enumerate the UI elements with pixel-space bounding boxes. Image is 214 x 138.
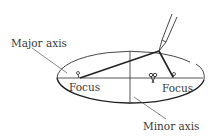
focus-left-label: Focus xyxy=(69,82,100,93)
major-axis-label: Major axis xyxy=(11,38,67,49)
pin-right-icon xyxy=(173,73,176,79)
pin-left-icon xyxy=(77,72,80,79)
pencil-icon xyxy=(159,14,177,51)
major-axis-leader xyxy=(32,48,67,73)
minor-axis-label: Minor axis xyxy=(143,121,199,132)
ellipse-diagram xyxy=(0,0,214,138)
focus-right-label: Focus xyxy=(162,83,193,94)
